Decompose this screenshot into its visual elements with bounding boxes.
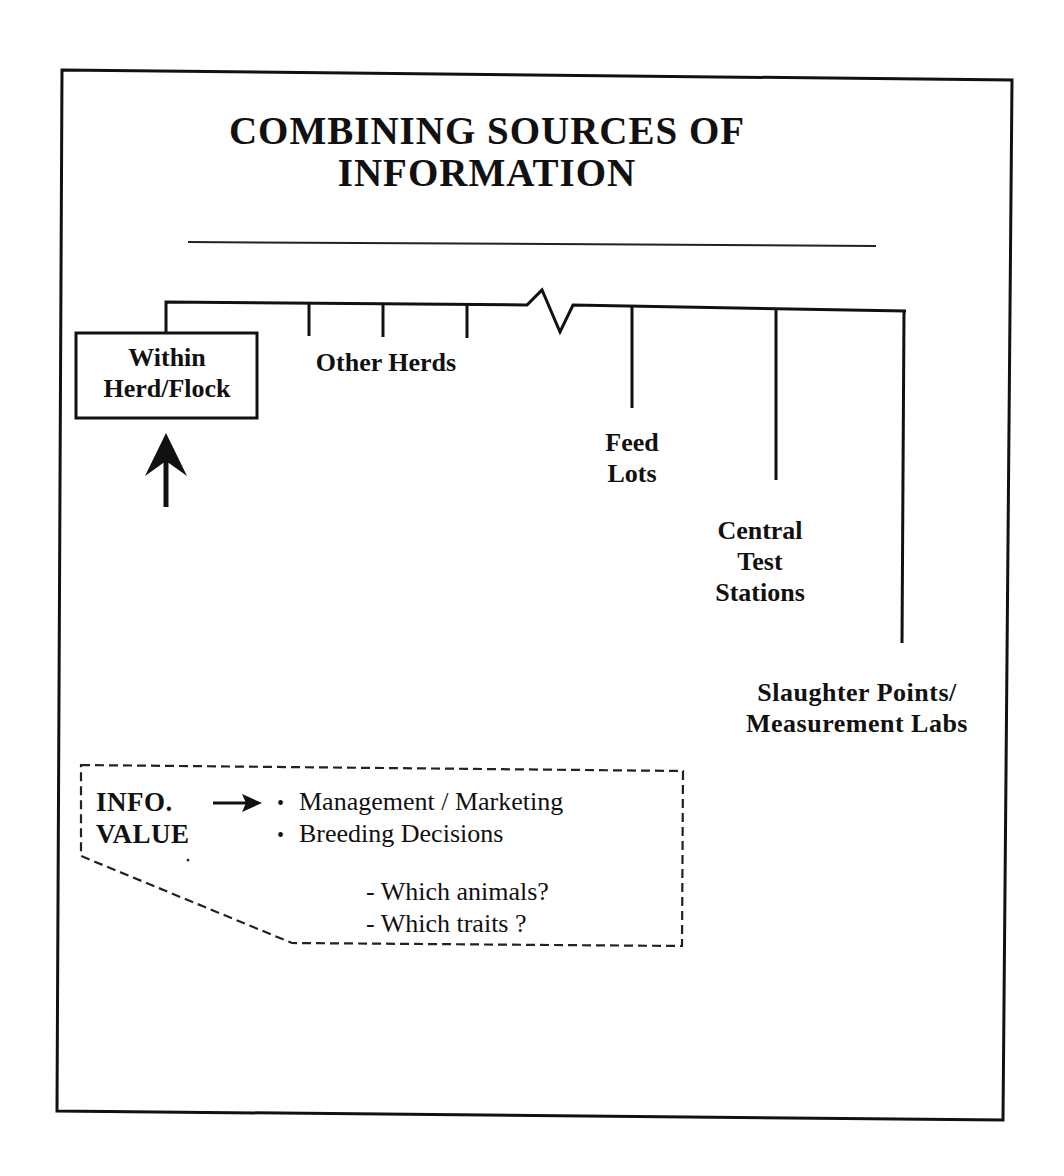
central-test-label: Central Test Stations	[700, 515, 820, 608]
within-herd-label-line-2: Herd/Flock	[78, 373, 256, 404]
info-value-label-line-1: INFO.	[96, 786, 190, 818]
feed-lots-label: Feed Lots	[582, 427, 682, 489]
title-line-2: INFORMATION	[190, 152, 784, 194]
outer-frame	[57, 70, 1012, 1120]
feed-lots-label-line-2: Lots	[582, 458, 682, 489]
diagram-title: COMBINING SOURCES OF INFORMATION	[190, 110, 784, 194]
other-herds-label: Other Herds	[296, 347, 476, 378]
info-sub-which-traits: - Which traits ?	[366, 908, 527, 940]
info-item-management-text: Management / Marketing	[299, 787, 563, 816]
scan-speck	[187, 859, 190, 862]
info-value-label-line-2: VALUE	[96, 818, 190, 850]
feed-lots-label-line-1: Feed	[582, 427, 682, 458]
up-arrow-icon	[145, 433, 187, 507]
slaughter-label-line-1: Slaughter Points/	[722, 677, 992, 708]
slaughter-label-line-2: Measurement Labs	[722, 708, 992, 739]
central-test-label-line-1: Central	[700, 515, 820, 546]
info-item-breeding: •Breeding Decisions	[277, 818, 503, 851]
title-line-1: COMBINING SOURCES OF	[190, 110, 784, 152]
slaughter-label: Slaughter Points/ Measurement Labs	[722, 677, 992, 739]
bullet-icon: •	[277, 819, 299, 851]
info-value-label: INFO. VALUE	[96, 786, 190, 850]
title-underline	[188, 242, 876, 246]
info-sub-which-animals: - Which animals?	[366, 876, 549, 908]
slaughter-connector	[902, 311, 904, 643]
bullet-icon: •	[277, 787, 299, 819]
info-item-management: •Management / Marketing	[277, 786, 563, 819]
central-test-label-line-2: Test	[700, 546, 820, 577]
central-test-label-line-3: Stations	[700, 577, 820, 608]
source-trunk-line	[166, 290, 906, 333]
within-herd-label-line-1: Within	[78, 342, 256, 373]
info-item-breeding-text: Breeding Decisions	[299, 819, 503, 848]
right-arrow-icon	[213, 794, 262, 812]
within-herd-label: Within Herd/Flock	[78, 342, 256, 404]
